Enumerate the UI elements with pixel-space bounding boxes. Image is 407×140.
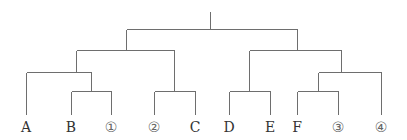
leaf-labels: A B ① ② C D E F ③ ④	[20, 119, 387, 135]
leaf-label-b: B	[66, 119, 76, 135]
leaf-label-e: E	[265, 119, 275, 135]
leaf-label-c: C	[190, 119, 201, 135]
leaf-label-d: D	[223, 119, 234, 135]
tree-branches	[27, 12, 382, 115]
leaf-label-2: ②	[148, 119, 161, 135]
leaf-label-1: ①	[105, 119, 118, 135]
leaf-label-3: ③	[332, 119, 345, 135]
leaf-label-4: ④	[375, 119, 388, 135]
leaf-label-a: A	[20, 119, 32, 135]
tree-diagram: A B ① ② C D E F ③ ④	[0, 0, 407, 140]
leaf-label-f: F	[292, 119, 302, 135]
